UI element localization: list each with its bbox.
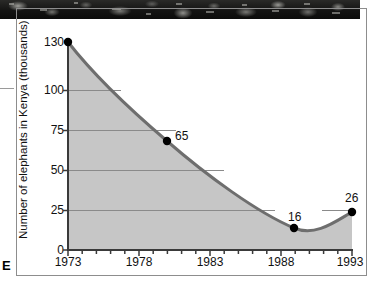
data-point-1980 — [163, 137, 171, 145]
chart-plot-svg — [0, 0, 387, 284]
x-axis-ticks — [68, 250, 352, 256]
elephant-population-chart: Number of elephants in Kenya (thousands)… — [0, 0, 387, 284]
data-point-1993 — [348, 208, 356, 216]
area-fill — [68, 42, 352, 250]
data-point-1973 — [64, 38, 72, 46]
data-point-1989 — [290, 224, 298, 232]
